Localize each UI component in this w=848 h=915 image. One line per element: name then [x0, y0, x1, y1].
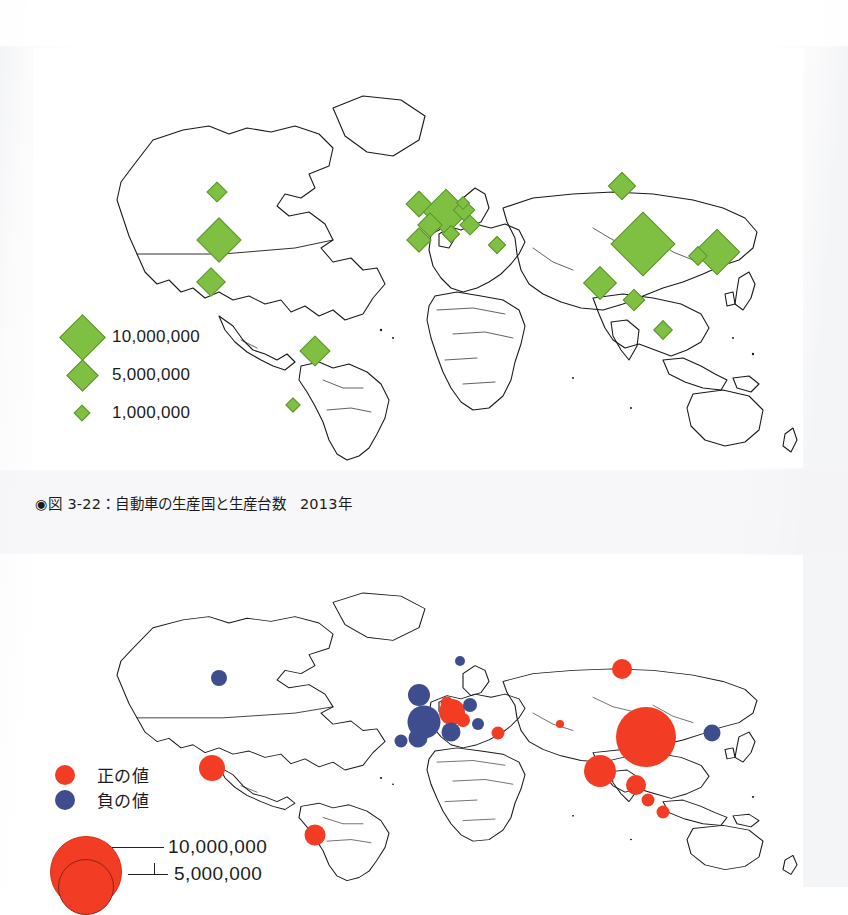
- production-legend: 10,000,000 5,000,000 1,000,000: [52, 318, 200, 432]
- legend-swatch-cell-5m: [52, 364, 112, 387]
- size-legend-circle-5m: [58, 859, 114, 915]
- size-legend-label-10m: 10,000,000: [168, 836, 267, 858]
- legend-swatch-cell-positive: [55, 765, 97, 785]
- legend-swatch-cell-1m: [52, 407, 112, 419]
- legend-diamond-icon-5m: [66, 359, 99, 392]
- legend-row-negative: 負の値: [55, 787, 149, 812]
- size-legend-leader-5m: [128, 874, 154, 875]
- caption-bullet-icon: ◉: [35, 496, 47, 512]
- size-legend-label-5m: 5,000,000: [174, 863, 262, 885]
- legend-diamond-icon-1m: [74, 405, 91, 422]
- figure-caption: ◉図 3-22：自動車の生産国と生産台数 2013年: [35, 492, 352, 513]
- legend-row-positive: 正の値: [55, 762, 149, 787]
- legend-row-5m: 5,000,000: [52, 356, 200, 394]
- legend-label-positive: 正の値: [97, 762, 149, 787]
- legend-swatch-cell-negative: [55, 790, 97, 810]
- trade-balance-sign-legend: 正の値 負の値: [55, 762, 149, 812]
- legend-label-1m: 1,000,000: [112, 403, 190, 423]
- legend-circle-icon-positive: [55, 765, 75, 785]
- scan-band-top: [0, 0, 848, 46]
- legend-label-10m: 10,000,000: [112, 327, 200, 347]
- legend-swatch-cell-10m: [52, 321, 112, 354]
- size-legend-leader-10m: [112, 847, 164, 848]
- trade-balance-size-legend: 10,000,000 5,000,000: [28, 833, 328, 887]
- legend-row-10m: 10,000,000: [52, 318, 200, 356]
- legend-label-negative: 負の値: [97, 787, 149, 812]
- legend-diamond-icon-10m: [59, 314, 106, 361]
- size-legend-leader-5m-end: [154, 874, 168, 875]
- caption-text: 図 3-22：自動車の生産国と生産台数 2013年: [48, 496, 351, 512]
- legend-circle-icon-negative: [55, 790, 75, 810]
- legend-label-5m: 5,000,000: [112, 365, 190, 385]
- legend-row-1m: 1,000,000: [52, 394, 200, 432]
